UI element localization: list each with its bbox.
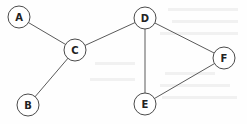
node-label: D — [141, 13, 149, 24]
node-d: D — [134, 7, 156, 29]
node-label: C — [71, 45, 78, 56]
node-c: C — [64, 39, 86, 61]
edge-c-d — [75, 18, 145, 50]
node-a: A — [8, 6, 30, 28]
node-label: E — [142, 99, 149, 110]
node-e: E — [134, 93, 156, 115]
graph-diagram: ABCDEF — [0, 0, 247, 124]
edges-layer — [19, 17, 224, 105]
node-f: F — [213, 47, 235, 69]
edge-d-f — [145, 18, 224, 58]
node-label: F — [221, 53, 228, 64]
graph-svg: ABCDEF — [0, 0, 247, 124]
node-label: B — [24, 100, 32, 111]
node-b: B — [17, 94, 39, 116]
node-label: A — [15, 12, 23, 23]
